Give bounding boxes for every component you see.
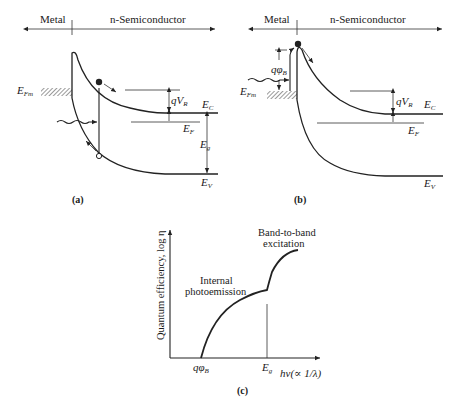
caption-b: (b) (294, 194, 306, 206)
y-axis-label: Quantum efficiency, log η (155, 230, 166, 340)
tick-qphib: qφB (193, 361, 210, 375)
panel-b: Metal n-Semiconductor EFm qφB qVR EC EF … (239, 13, 443, 206)
band-label-2: excitation (263, 238, 305, 249)
ec-label-b: EC (423, 98, 436, 112)
photon-wave-icon-b (248, 79, 289, 82)
conduction-band-b (297, 47, 443, 114)
photon-wave-icon-a (57, 121, 97, 124)
conduction-band-a (72, 52, 218, 113)
internal-label-2: photoemission (185, 286, 247, 297)
internal-label-1: Internal (200, 275, 233, 286)
ef-label-b: EF (407, 124, 420, 138)
hot-electron-path-b (290, 48, 294, 91)
electron-icon-a (96, 79, 102, 85)
hole-icon-a (96, 153, 101, 158)
panel-c: Quantum efficiency, log η Internal photo… (155, 227, 322, 397)
qphib-label-b: qφB (271, 63, 288, 77)
valence-band-b (297, 100, 443, 176)
metal-fermi-hatch-a (41, 88, 72, 96)
electron-drift-arrow-a (104, 84, 116, 92)
tick-eg: Eg (261, 361, 273, 375)
metal-label-a: Metal (40, 13, 66, 25)
schottky-photodiode-figure: Metal n-Semiconductor EFm qVR EC EF Eg E… (0, 0, 458, 414)
ev-label-a: EV (200, 176, 213, 190)
panel-a: Metal n-Semiconductor EFm qVR EC EF Eg E… (16, 13, 218, 206)
qvr-label-b: qVR (396, 95, 413, 109)
ec-label-a: EC (201, 98, 214, 112)
caption-a: (a) (72, 194, 84, 206)
caption-c: (c) (237, 385, 248, 397)
ef-label-a: EF (182, 122, 195, 136)
eg-label-a: Eg (199, 138, 211, 152)
metal-label-b: Metal (264, 13, 290, 25)
electron-icon-b (295, 41, 301, 47)
valence-band-a (72, 98, 218, 174)
qvr-label-a: qVR (171, 94, 188, 108)
ev-label-b: EV (423, 177, 436, 191)
band-label-1: Band-to-band (258, 227, 316, 238)
efm-label-b: EFm (239, 85, 256, 99)
efm-label-a: EFm (16, 84, 33, 98)
metal-fermi-hatch-b (267, 91, 297, 99)
semiconductor-label-a: n-Semiconductor (110, 13, 186, 25)
quantum-efficiency-curve (201, 250, 298, 358)
x-axis-label: hν(∝ 1/λ) (280, 367, 322, 380)
semiconductor-label-b: n-Semiconductor (330, 13, 406, 25)
